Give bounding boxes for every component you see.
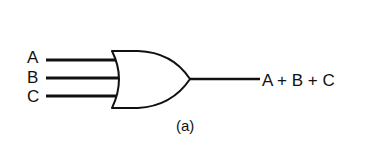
input-label-a: A <box>27 48 39 67</box>
input-label-b: B <box>27 68 38 87</box>
or-gate-icon <box>112 51 190 108</box>
output-label: A + B + C <box>262 71 335 90</box>
input-label-c: C <box>27 87 39 106</box>
or-gate-diagram: A B C A + B + C (a) <box>0 0 376 167</box>
figure-caption: (a) <box>176 117 194 134</box>
